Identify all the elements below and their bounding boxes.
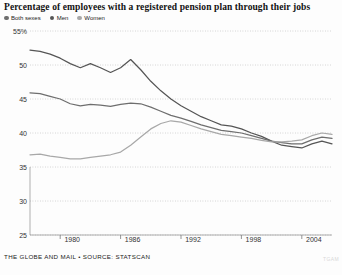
legend-label-women: Women [84,15,105,21]
chart-svg [30,31,332,235]
legend-marker-women [77,16,82,21]
x-tick-label: 1980 [64,236,80,243]
legend-item-women[interactable]: Women [77,15,105,21]
legend-label-both-sexes: Both sexes [11,15,41,21]
source-credit: THE GLOBE AND MAIL • SOURCE: STATSCAN [4,253,150,260]
data-series [30,50,332,159]
y-tick-label: 45 [3,96,27,103]
y-tick-label: 35 [3,164,27,171]
legend-item-men[interactable]: Men [50,15,69,21]
series-line-both-sexes [30,93,332,144]
legend-marker-both-sexes [4,16,9,21]
watermark: TGAM [323,256,339,262]
plot-area [30,31,332,235]
x-tick-label: 1998 [246,236,262,243]
x-axis-labels: 19801986199219982004 [30,236,332,248]
x-tick-label: 1986 [125,236,141,243]
chart-title: Percentage of employees with a registere… [4,2,310,12]
legend-label-men: Men [57,15,69,21]
series-line-women [30,121,332,159]
x-tick-label: 1992 [185,236,201,243]
y-tick-label: 25 [3,232,27,239]
y-axis-labels: 55%504540353025 [0,31,27,235]
y-tick-label: 30 [3,198,27,205]
chart-figure: Percentage of employees with a registere… [0,0,342,275]
gridlines [30,31,332,235]
chart-legend: Both sexes Men Women [4,15,105,21]
legend-item-both-sexes[interactable]: Both sexes [4,15,41,21]
y-tick-label: 50 [3,62,27,69]
legend-marker-men [50,16,55,21]
x-tick-label: 2004 [306,236,322,243]
y-tick-label: 40 [3,130,27,137]
y-tick-label: 55% [3,28,27,35]
